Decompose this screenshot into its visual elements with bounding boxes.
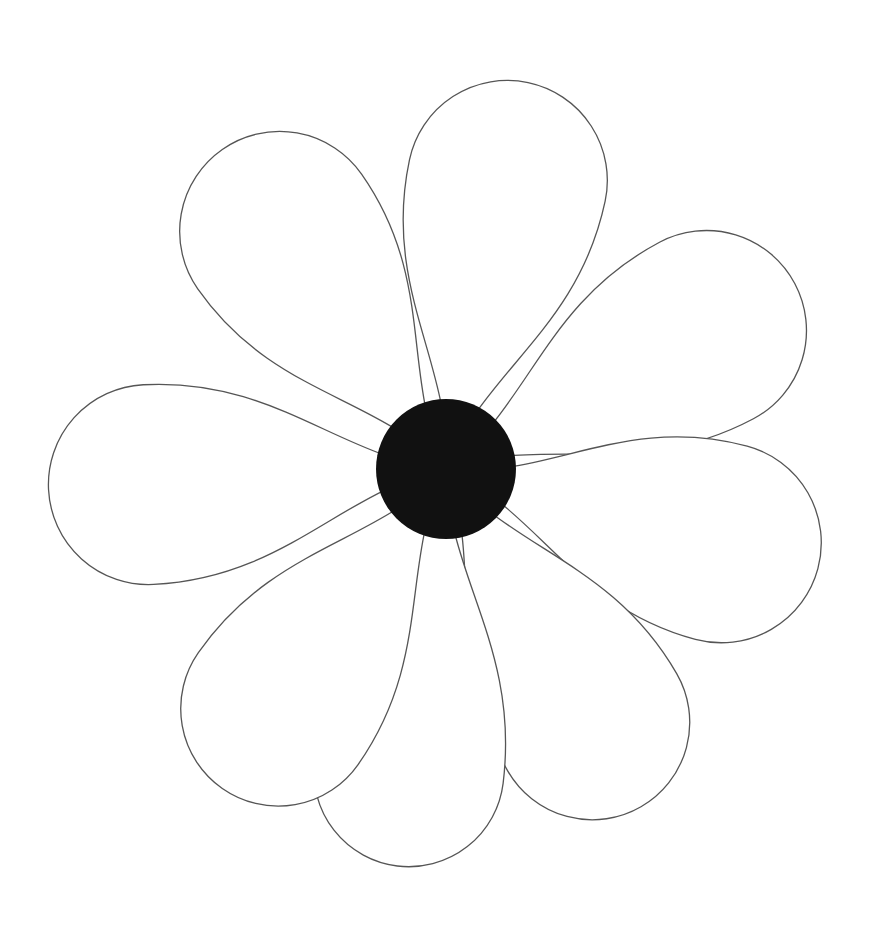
flower-center: [376, 399, 516, 539]
flower-drawing: [0, 0, 873, 931]
